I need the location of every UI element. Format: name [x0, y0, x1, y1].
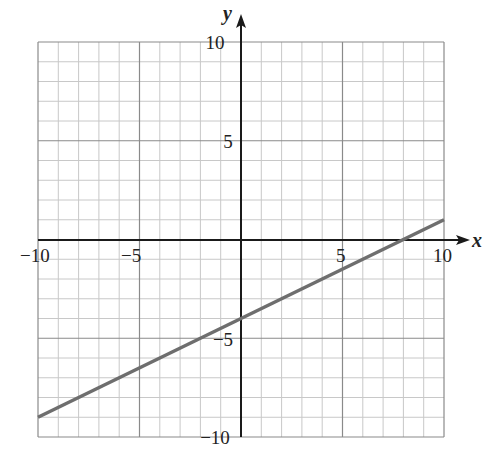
y-tick-label: 10 — [206, 32, 225, 53]
x-tick-label: −5 — [121, 245, 141, 266]
x-tick-label: 5 — [336, 245, 346, 266]
tick-labels: x y −10 −5 5 10 10 5 −5 −10 — [20, 2, 482, 448]
axes — [38, 14, 470, 437]
y-tick-label: 5 — [223, 131, 233, 152]
x-axis-label: x — [471, 229, 482, 251]
y-axis-label: y — [221, 2, 232, 25]
x-tick-label: 10 — [433, 245, 452, 266]
y-tick-label: −5 — [213, 329, 233, 350]
coordinate-plane: x y −10 −5 5 10 10 5 −5 −10 — [0, 0, 493, 467]
y-tick-label: −10 — [200, 427, 230, 448]
x-tick-label: −10 — [20, 245, 50, 266]
